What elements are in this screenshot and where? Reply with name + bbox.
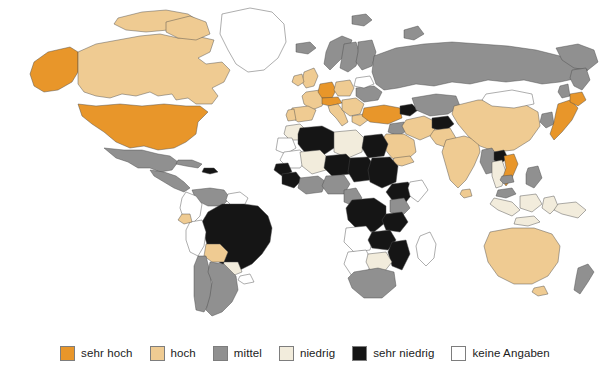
map-legend: sehr hoch hoch mittel niedrig sehr niedr… <box>0 336 610 370</box>
legend-item-sehr-hoch[interactable]: sehr hoch <box>60 346 132 361</box>
legend-swatch-mittel <box>213 346 228 361</box>
legend-label-keine-angaben: keine Angaben <box>472 347 549 359</box>
country-egypt[interactable] <box>362 134 388 158</box>
legend-item-niedrig[interactable]: niedrig <box>279 346 335 361</box>
legend-swatch-niedrig <box>279 346 294 361</box>
legend-item-hoch[interactable]: hoch <box>150 346 196 361</box>
country-poland[interactable] <box>334 80 354 96</box>
world-map-figure: sehr hoch hoch mittel niedrig sehr niedr… <box>0 0 610 377</box>
country-germany[interactable] <box>318 82 336 98</box>
legend-item-sehr-niedrig[interactable]: sehr niedrig <box>352 346 434 361</box>
legend-label-sehr-niedrig: sehr niedrig <box>373 347 434 359</box>
legend-label-sehr-hoch: sehr hoch <box>81 347 132 359</box>
legend-swatch-sehr-niedrig <box>352 346 367 361</box>
legend-label-hoch: hoch <box>171 347 196 359</box>
map-area <box>0 0 610 330</box>
legend-swatch-keine-angaben <box>451 346 466 361</box>
legend-swatch-sehr-hoch <box>60 346 75 361</box>
legend-item-keine-angaben[interactable]: keine Angaben <box>451 346 549 361</box>
legend-label-mittel: mittel <box>234 347 262 359</box>
country-portugal[interactable] <box>286 109 296 121</box>
legend-item-mittel[interactable]: mittel <box>213 346 262 361</box>
country-canada[interactable] <box>78 34 230 104</box>
legend-swatch-hoch <box>150 346 165 361</box>
country-ghana-region[interactable] <box>298 176 326 194</box>
legend-label-niedrig: niedrig <box>300 347 335 359</box>
world-map-svg <box>0 0 610 330</box>
